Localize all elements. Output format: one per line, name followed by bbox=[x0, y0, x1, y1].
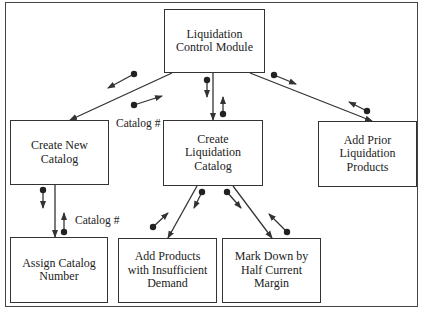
module-assign-catalog-number: Assign Catalog Number bbox=[10, 237, 108, 303]
module-line: Catalog bbox=[31, 153, 88, 167]
call-create-liq-to-add-products bbox=[168, 186, 197, 238]
call-create-liq-to-mark-down bbox=[233, 186, 272, 238]
module-line: Catalog bbox=[185, 160, 241, 174]
module-line: Half Current bbox=[235, 264, 308, 278]
module-line: Mark Down by bbox=[235, 250, 308, 264]
module-line: Number bbox=[22, 270, 96, 284]
call-root-to-create-new bbox=[70, 73, 172, 120]
module-liquidation-control: Liquidation Control Module bbox=[164, 9, 265, 73]
module-line: Liquidation bbox=[185, 146, 241, 160]
module-line: Add Products bbox=[128, 250, 207, 264]
module-add-products-insufficient-demand: Add Products with Insufficient Demand bbox=[118, 238, 217, 303]
call-root-to-add-prior bbox=[250, 73, 372, 121]
module-line: Liquidation bbox=[176, 28, 253, 42]
module-line: with Insufficient bbox=[128, 264, 207, 278]
couple-root-new-down bbox=[108, 74, 134, 88]
couple-label-catalog-number: Catalog # bbox=[116, 117, 160, 129]
module-line: Liquidation bbox=[340, 147, 396, 161]
module-line: Products bbox=[340, 161, 396, 175]
couple-liq-mark-up bbox=[269, 214, 287, 232]
module-create-new-catalog: Create New Catalog bbox=[10, 120, 109, 185]
module-line: Add Prior bbox=[340, 134, 396, 148]
module-line: Demand bbox=[128, 277, 207, 291]
module-add-prior-liquidation-products: Add Prior Liquidation Products bbox=[318, 121, 417, 187]
module-line: Create bbox=[185, 133, 241, 147]
module-line: Assign Catalog bbox=[22, 257, 96, 271]
module-line: Margin bbox=[235, 277, 308, 291]
couple-root-new-up bbox=[134, 96, 162, 105]
module-line: Control Module bbox=[176, 41, 253, 55]
module-mark-down-half-margin: Mark Down by Half Current Margin bbox=[222, 238, 321, 303]
module-create-liquidation-catalog: Create Liquidation Catalog bbox=[163, 120, 263, 186]
module-line: Create New bbox=[31, 139, 88, 153]
couple-root-prior-down bbox=[274, 75, 296, 84]
couple-label-catalog-number: Catalog # bbox=[75, 214, 119, 226]
